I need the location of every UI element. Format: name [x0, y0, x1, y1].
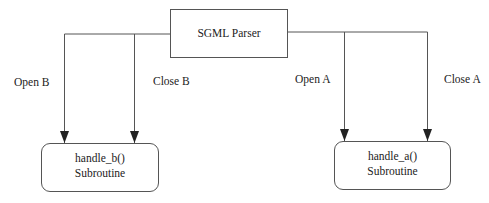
- edge-label-open-a: Open A: [295, 73, 330, 85]
- edge-close-a: [288, 32, 428, 141]
- handle-b-kind: Subroutine: [42, 166, 158, 181]
- handle-a-kind: Subroutine: [335, 164, 450, 179]
- edge-open-b: [65, 34, 171, 143]
- edge-label-open-b: Open B: [14, 76, 49, 88]
- sgml-parser-label: SGML Parser: [197, 27, 260, 39]
- handle-a-subroutine-node: handle_a() Subroutine: [334, 141, 451, 190]
- sgml-parser-node: SGML Parser: [170, 9, 288, 58]
- handle-a-name: handle_a(): [335, 149, 450, 164]
- edge-label-close-a: Close A: [444, 73, 481, 85]
- handle-b-subroutine-node: handle_b() Subroutine: [41, 143, 159, 192]
- edge-label-close-b: Close B: [153, 75, 190, 87]
- arrowhead-close-a: [423, 129, 432, 141]
- handle-b-name: handle_b(): [42, 151, 158, 166]
- arrowhead-close-b: [130, 131, 139, 143]
- arrowhead-open-a: [340, 129, 349, 141]
- arrowhead-open-b: [60, 131, 69, 143]
